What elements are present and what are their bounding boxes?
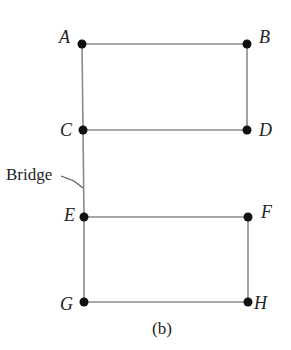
label-g: G: [60, 294, 73, 314]
node-labels: A B C D E F G H: [58, 27, 273, 314]
figure-caption: (b): [152, 319, 172, 338]
node-f: [244, 213, 253, 222]
node-c: [79, 126, 88, 135]
label-a: A: [58, 27, 71, 47]
label-e: E: [63, 205, 75, 225]
graph-diagram: A B C D E F G H Bridge (b): [0, 0, 291, 350]
edges: [82, 44, 248, 302]
node-h: [244, 298, 253, 307]
bridge-label: Bridge: [6, 165, 52, 184]
label-f: F: [260, 202, 273, 222]
node-b: [243, 40, 252, 49]
label-c: C: [60, 120, 73, 140]
edge-c-e-bridge: [83, 130, 84, 217]
node-a: [78, 40, 87, 49]
label-b: B: [259, 27, 270, 47]
node-d: [243, 126, 252, 135]
node-e: [80, 213, 89, 222]
bridge-leader-line: [61, 176, 83, 188]
node-g: [80, 298, 89, 307]
label-h: H: [253, 293, 268, 313]
edge-a-c: [82, 44, 83, 130]
label-d: D: [258, 120, 272, 140]
nodes: [78, 40, 253, 307]
